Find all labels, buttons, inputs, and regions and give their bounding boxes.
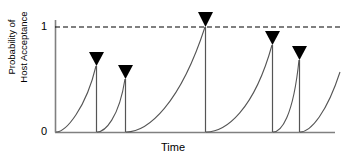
curve-segment-4	[206, 45, 272, 132]
y-axis-title-line-1: Probability of	[6, 0, 18, 102]
acceptance-marker-2	[118, 65, 133, 79]
y-axis-tick-label-0: 0	[41, 126, 47, 137]
curve-segment-3	[126, 27, 205, 132]
chart-figure: 1 0 Probability of Host Acceptance Time	[0, 0, 346, 161]
sawtooth-plot	[0, 0, 346, 161]
acceptance-marker-1	[89, 52, 104, 66]
y-axis-title: Probability of Host Acceptance	[6, 0, 36, 102]
acceptance-curve-group	[56, 27, 340, 132]
x-axis-title: Time	[0, 142, 346, 153]
curve-segment-5	[273, 60, 299, 132]
acceptance-marker-3	[198, 12, 213, 27]
curve-segment-6	[300, 72, 340, 132]
acceptance-marker-5	[292, 46, 307, 60]
y-axis-tick-label-1: 1	[41, 21, 47, 32]
curve-segment-1	[56, 66, 96, 132]
y-axis-title-line-2: Host Acceptance	[18, 0, 30, 102]
acceptance-marker-4	[265, 31, 280, 45]
curve-segment-2	[97, 79, 125, 132]
